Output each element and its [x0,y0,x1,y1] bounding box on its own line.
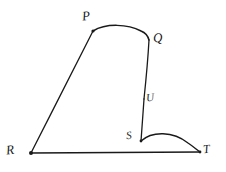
vertex-label-t: T [202,143,210,156]
vertex-dot-t [199,151,202,154]
vertex-dot-p [91,29,94,32]
figure-canvas [0,0,226,172]
geometry-figure: P Q U S R T [0,0,226,172]
vertex-label-q: Q [152,31,163,45]
vertex-label-p: P [81,9,90,23]
segment-u-to-s [141,99,144,141]
vertex-label-s: S [125,130,132,142]
vertex-label-u: U [145,92,154,104]
arc-s-to-t [141,134,200,152]
segment-r-to-t-baseline [31,152,200,153]
segment-r-to-p [31,31,93,153]
vertex-label-r: R [5,143,14,157]
vertex-dot-r [29,151,33,155]
vertex-dot-s [140,140,143,143]
arc-p-to-q [93,25,149,40]
